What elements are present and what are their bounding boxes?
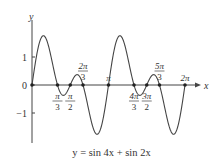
y-tick-label: 0 — [22, 80, 27, 91]
x-tick-label: 5π3 — [154, 61, 164, 82]
zero-point — [81, 83, 85, 87]
zero-point — [132, 83, 136, 87]
y-tick-label: −1 — [16, 108, 27, 119]
zero-point — [30, 83, 34, 87]
svg-text:4π: 4π — [129, 91, 139, 101]
x-axis-arrow-icon — [195, 83, 201, 88]
x-tick-label: 2π — [180, 73, 190, 83]
zero-point — [68, 83, 72, 87]
y-tick-label: 1 — [22, 52, 27, 63]
chart-caption: y = sin 4x + sin 2x — [0, 147, 223, 158]
zero-point — [145, 83, 149, 87]
x-ticks: π3π22π3π4π33π25π32π — [52, 61, 189, 112]
svg-text:5π: 5π — [155, 61, 165, 71]
caption-text: y = sin 4x + sin 2x — [72, 147, 150, 158]
svg-text:3: 3 — [55, 102, 60, 112]
svg-text:2π: 2π — [78, 61, 88, 71]
svg-text:π: π — [68, 91, 73, 101]
svg-text:2: 2 — [144, 102, 149, 112]
x-tick-label: π2 — [65, 91, 75, 112]
svg-text:2: 2 — [68, 102, 73, 112]
zero-point — [158, 83, 162, 87]
x-tick-label: 3π2 — [141, 91, 152, 112]
svg-text:2π: 2π — [180, 73, 190, 83]
function-plot: y x 10−1 π3π22π3π4π33π25π32π — [0, 0, 223, 163]
svg-text:3: 3 — [132, 102, 137, 112]
zero-point — [56, 83, 60, 87]
y-axis-label: y — [28, 11, 34, 22]
zero-point — [183, 83, 187, 87]
zero-point — [107, 83, 111, 87]
x-tick-label: 2π3 — [78, 61, 88, 82]
x-axis-label: x — [203, 80, 209, 91]
svg-text:π: π — [55, 91, 60, 101]
